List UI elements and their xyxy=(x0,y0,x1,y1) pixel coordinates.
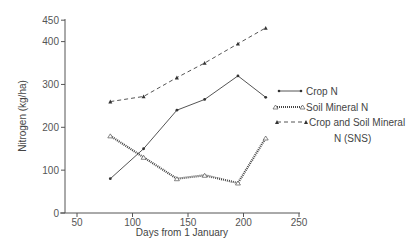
y-ticks: 0100200300400450 xyxy=(42,15,65,219)
data-point xyxy=(108,134,113,138)
legend-label-soil-mineral-n: Soil Mineral N xyxy=(306,102,368,113)
data-point xyxy=(264,26,268,30)
x-tick-label: 200 xyxy=(235,217,252,228)
y-axis-title: Nitrogen (kg/ha) xyxy=(17,80,28,152)
y-tick-label: 400 xyxy=(42,36,59,47)
data-point xyxy=(175,76,179,80)
legend-item-sns: Crop and Soil Mineral N (SNS) xyxy=(275,117,405,145)
data-point xyxy=(237,74,240,77)
y-tick-label: 200 xyxy=(42,122,59,133)
y-tick-label: 100 xyxy=(42,165,59,176)
legend-item-soil-mineral-n: Soil Mineral N xyxy=(273,102,368,113)
legend-label-sns-line1: Crop and Soil Mineral xyxy=(309,117,405,128)
data-point xyxy=(142,94,146,98)
data-point xyxy=(263,136,268,140)
data-point xyxy=(142,147,145,150)
data-point xyxy=(176,109,179,112)
x-ticks: 50100150200250 xyxy=(71,213,307,228)
legend-item-crop-n: Crop N xyxy=(278,86,338,97)
data-point xyxy=(264,96,267,99)
legend-label-crop-n: Crop N xyxy=(306,86,338,97)
data-point xyxy=(235,181,240,185)
y-tick-label: 300 xyxy=(42,79,59,90)
y-tick-label: 450 xyxy=(42,15,59,26)
x-tick-label: 50 xyxy=(71,217,83,228)
series-crop-and-soil-mineral-n-sns xyxy=(108,26,267,104)
data-point xyxy=(203,61,207,65)
legend: Crop N Soil Mineral N Crop and Soil Mine… xyxy=(273,86,405,145)
x-axis-title: Days from 1 January xyxy=(136,227,228,238)
x-tick-label: 250 xyxy=(291,217,308,228)
nitrogen-line-chart: 0100200300400450 50100150200250 Days fro… xyxy=(0,0,415,252)
data-point xyxy=(236,42,240,46)
data-point xyxy=(203,98,206,101)
y-tick-label: 0 xyxy=(53,208,59,219)
series-crop-n xyxy=(109,74,267,180)
legend-label-sns-line2: N (SNS) xyxy=(334,133,371,144)
data-series xyxy=(108,26,268,185)
data-point xyxy=(109,177,112,180)
